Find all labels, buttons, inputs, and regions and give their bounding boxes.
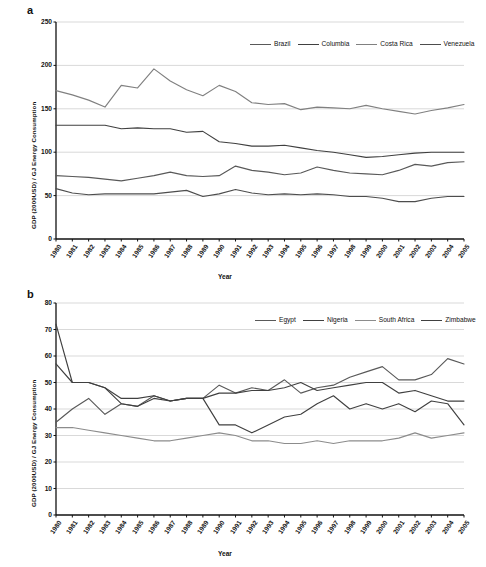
legend-label: Egypt bbox=[279, 317, 296, 324]
panel-a-legend: BrazilColumbiaCosta RicaVenezuela bbox=[250, 41, 474, 48]
legend-entry-columbia[interactable]: Columbia bbox=[298, 41, 350, 48]
legend-line-icon bbox=[250, 44, 271, 45]
legend-entry-south-africa[interactable]: South Africa bbox=[355, 317, 415, 324]
y-tick-label: 50 bbox=[26, 379, 52, 386]
panel-a-x-axis-label: Year bbox=[218, 273, 232, 280]
legend-label: Nigeria bbox=[327, 317, 348, 324]
legend-line-icon bbox=[356, 44, 377, 45]
y-tick-label: 60 bbox=[26, 352, 52, 359]
y-tick-label: 10 bbox=[26, 485, 52, 492]
legend-line-icon bbox=[355, 320, 376, 321]
legend-label: South Africa bbox=[379, 317, 415, 324]
y-tick-label: 0 bbox=[26, 511, 52, 518]
legend-label: Costa Rica bbox=[380, 41, 412, 48]
legend-line-icon bbox=[298, 44, 319, 45]
y-tick-label: 70 bbox=[26, 326, 52, 333]
legend-entry-zimbabwe[interactable]: Zimbabwe bbox=[421, 317, 475, 324]
y-tick-label: 40 bbox=[26, 405, 52, 412]
legend-label: Venezuela bbox=[444, 41, 475, 48]
y-tick-label: 80 bbox=[26, 299, 52, 306]
y-tick-label: 20 bbox=[26, 458, 52, 465]
panel-b-legend: EgyptNigeriaSouth AfricaZimbabwe bbox=[255, 317, 476, 324]
panel-b: b GDP (2000USD) / GJ Energy Consumption … bbox=[0, 285, 486, 567]
legend-entry-brazil[interactable]: Brazil bbox=[250, 41, 291, 48]
legend-label: Zimbabwe bbox=[445, 317, 475, 324]
y-tick-label: 100 bbox=[26, 148, 52, 155]
y-tick-label: 30 bbox=[26, 432, 52, 439]
legend-entry-costa-rica[interactable]: Costa Rica bbox=[356, 41, 412, 48]
legend-entry-nigeria[interactable]: Nigeria bbox=[303, 317, 348, 324]
y-tick-label: 150 bbox=[26, 105, 52, 112]
legend-line-icon bbox=[421, 320, 442, 321]
y-tick-label: 0 bbox=[26, 235, 52, 242]
panel-b-x-axis-label: Year bbox=[218, 550, 232, 557]
legend-entry-venezuela[interactable]: Venezuela bbox=[420, 41, 475, 48]
panel-a: a GDP (2000USD) / GJ Energy Consumption … bbox=[0, 0, 486, 285]
figure-page: a GDP (2000USD) / GJ Energy Consumption … bbox=[0, 0, 486, 567]
y-tick-label: 250 bbox=[26, 18, 52, 25]
legend-line-icon bbox=[303, 320, 324, 321]
legend-line-icon bbox=[255, 320, 276, 321]
y-tick-label: 50 bbox=[26, 192, 52, 199]
y-tick-label: 200 bbox=[26, 61, 52, 68]
legend-label: Brazil bbox=[274, 41, 291, 48]
legend-label: Columbia bbox=[322, 41, 350, 48]
legend-entry-egypt[interactable]: Egypt bbox=[255, 317, 296, 324]
legend-line-icon bbox=[420, 44, 441, 45]
